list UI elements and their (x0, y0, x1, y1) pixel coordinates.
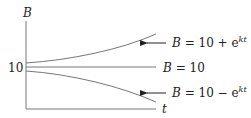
solution-curves-diagram: B t 10 B = 10 + ekt B = 10 B = 10 − ekt (0, 0, 251, 118)
x-axis-label: t (162, 102, 167, 116)
growth-curve (26, 34, 156, 63)
y-tick-10: 10 (8, 61, 23, 75)
y-axis-label: B (22, 6, 32, 20)
decay-label: B = 10 − ekt (171, 85, 247, 100)
decay-curve (26, 71, 156, 102)
equilibrium-label: B = 10 (162, 61, 205, 75)
growth-label: B = 10 + ekt (171, 35, 247, 50)
